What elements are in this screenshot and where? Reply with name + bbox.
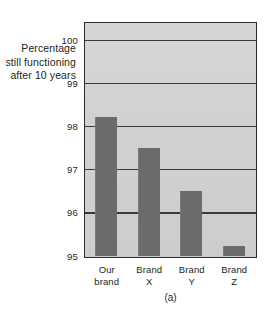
bar-brand-y	[180, 191, 202, 256]
figure-caption: (a)	[84, 292, 257, 304]
gridline-100	[85, 40, 256, 42]
bar-our-brand	[95, 117, 117, 256]
x-tick-label-brand-z: Brand Z	[204, 264, 264, 288]
y-tick-label-100: 100	[52, 36, 78, 46]
y-tick-label-98: 98	[52, 122, 78, 132]
y-tick-label-96: 96	[52, 208, 78, 218]
bar-chart-figure: Percentage still functioning after 10 ye…	[0, 0, 273, 318]
plot-frame	[84, 22, 257, 258]
gridline-99	[85, 83, 256, 85]
bar-brand-z	[223, 246, 245, 256]
bar-brand-x	[138, 148, 160, 256]
x-tick-label-brand-z-line-2: Z	[204, 276, 264, 288]
x-tick-label-brand-z-line-1: Brand	[204, 264, 264, 276]
y-tick-label-99: 99	[52, 79, 78, 89]
plot-area	[85, 23, 256, 257]
y-axis-title: Percentage still functioning after 10 ye…	[0, 42, 76, 83]
y-axis-title-line-2: still functioning	[0, 56, 76, 70]
y-tick-label-95: 95	[52, 252, 78, 262]
y-tick-label-97: 97	[52, 165, 78, 175]
